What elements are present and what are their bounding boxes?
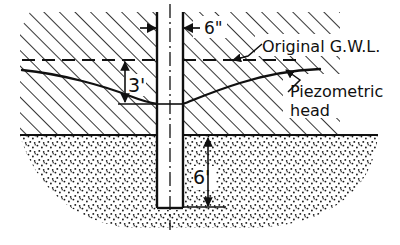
original-gwl-label: Original G.W.L. [262,37,380,56]
piezometric-head-label-line1: Piezometric [290,82,383,101]
casing-diameter-label: 6" [204,18,223,38]
well-drawdown-diagram: 6" 3' 6' Original G.W.L. Piezometric hea… [0,0,400,245]
piezometric-head-label-line2: head [290,101,330,120]
penetration-depth-label: 6' [193,166,210,188]
drawdown-depth-label: 3' [128,74,145,96]
diagram-canvas: 6" 3' 6' Original G.W.L. Piezometric hea… [0,0,400,245]
